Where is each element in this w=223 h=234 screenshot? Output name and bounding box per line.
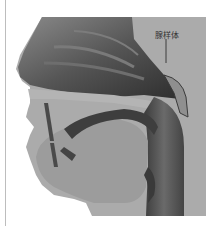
margin-rule <box>5 0 6 226</box>
adenoid-label: 腺样体 <box>155 29 179 40</box>
anatomy-illustration <box>14 17 206 216</box>
anatomy-svg <box>14 17 206 216</box>
